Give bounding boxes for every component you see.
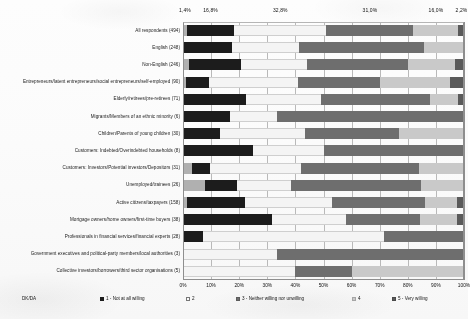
bar-row[interactable]: [183, 142, 464, 159]
bar-row[interactable]: [183, 211, 464, 228]
bar-segment-s2[interactable]: [220, 128, 304, 139]
bar-segment-s4[interactable]: [419, 163, 464, 174]
bar-segment-s1[interactable]: [187, 197, 246, 208]
bar-segment-s3[interactable]: [298, 77, 379, 88]
bar-segment-s2[interactable]: [246, 94, 320, 105]
legend-item-0[interactable]: DK/DA: [22, 296, 36, 302]
bar-segment-s1[interactable]: [183, 94, 246, 105]
bar-segment-s5[interactable]: [458, 94, 464, 105]
bar-segment-s0[interactable]: [183, 163, 192, 174]
stacked-bar[interactable]: [183, 128, 464, 139]
bar-row[interactable]: [183, 246, 464, 263]
bar-segment-s2[interactable]: [209, 77, 299, 88]
bar-segment-s2[interactable]: [210, 163, 301, 174]
stacked-bar[interactable]: [183, 231, 464, 242]
bar-segment-s1[interactable]: [183, 145, 253, 156]
bar-segment-s2[interactable]: [183, 266, 295, 277]
bar-row[interactable]: [183, 125, 464, 142]
bar-segment-s4[interactable]: [425, 197, 457, 208]
bar-segment-s1[interactable]: [192, 163, 210, 174]
bar-row[interactable]: [183, 177, 464, 194]
bar-segment-s3[interactable]: [346, 214, 420, 225]
bar-segment-s4[interactable]: [380, 77, 450, 88]
bar-segment-s3[interactable]: [295, 266, 351, 277]
bar-row[interactable]: [183, 263, 464, 280]
stacked-bar[interactable]: [183, 111, 464, 122]
bar-segment-s1[interactable]: [189, 59, 242, 70]
bar-row[interactable]: [183, 228, 464, 245]
bar-segment-s3[interactable]: [384, 231, 464, 242]
bar-segment-s5[interactable]: [457, 214, 464, 225]
bar-segment-s1[interactable]: [183, 128, 220, 139]
bar-segment-s1[interactable]: [205, 180, 237, 191]
stacked-bar[interactable]: [183, 163, 464, 174]
bar-segment-s4[interactable]: [352, 266, 464, 277]
bar-segment-s0[interactable]: [183, 180, 205, 191]
bar-segment-s2[interactable]: [245, 197, 332, 208]
bar-segment-s1[interactable]: [183, 214, 272, 225]
bar-row[interactable]: [183, 194, 464, 211]
stacked-bar[interactable]: [183, 42, 464, 53]
bar-segment-s4[interactable]: [424, 42, 464, 53]
bar-segment-s2[interactable]: [183, 249, 277, 260]
bar-segment-s3[interactable]: [305, 128, 399, 139]
legend-item-5[interactable]: 5 - Very willing: [392, 296, 428, 302]
stacked-bar[interactable]: [183, 266, 464, 277]
bar-segment-s5[interactable]: [455, 59, 464, 70]
stacked-bar[interactable]: [183, 94, 464, 105]
bar-segment-s2[interactable]: [203, 231, 384, 242]
bar-segment-s3[interactable]: [321, 94, 431, 105]
bar-segment-s5[interactable]: [450, 77, 464, 88]
bar-row[interactable]: [183, 91, 464, 108]
bar-segment-s3[interactable]: [326, 25, 413, 36]
legend-item-2[interactable]: 2: [186, 296, 195, 302]
bar-segment-s3[interactable]: [301, 163, 419, 174]
bar-row[interactable]: [183, 108, 464, 125]
stacked-bar[interactable]: [183, 214, 464, 225]
bar-segment-s4[interactable]: [408, 59, 455, 70]
bar-segment-s1[interactable]: [187, 25, 234, 36]
bar-segment-s4[interactable]: [430, 94, 458, 105]
bar-segment-s3[interactable]: [277, 249, 464, 260]
bar-segment-s3[interactable]: [277, 111, 464, 122]
bar-segment-s2[interactable]: [230, 111, 277, 122]
bar-segment-s1[interactable]: [186, 77, 208, 88]
bar-segment-s5[interactable]: [457, 197, 464, 208]
bar-row[interactable]: [183, 39, 464, 56]
stacked-bar[interactable]: [183, 180, 464, 191]
stacked-bar[interactable]: [183, 197, 464, 208]
bar-segment-s1[interactable]: [183, 42, 232, 53]
stacked-bar[interactable]: [183, 145, 464, 156]
bar-segment-s2[interactable]: [232, 42, 299, 53]
bar-segment-s3[interactable]: [332, 197, 424, 208]
bar-row[interactable]: [183, 160, 464, 177]
bar-segment-s2[interactable]: [272, 214, 346, 225]
legend-item-4[interactable]: 4: [352, 296, 361, 302]
bar-segment-s3[interactable]: [324, 145, 465, 156]
bar-segment-s3[interactable]: [299, 42, 424, 53]
legend-item-1[interactable]: 1 - Not at all willing: [100, 296, 145, 302]
bar-segment-s2[interactable]: [241, 59, 307, 70]
bar-segment-s2[interactable]: [253, 145, 323, 156]
top-value-label: 32,8%: [273, 7, 288, 13]
bar-segment-s3[interactable]: [307, 59, 408, 70]
bar-segment-s5[interactable]: [458, 25, 464, 36]
bar-segment-s2[interactable]: [234, 25, 326, 36]
bar-segment-s1[interactable]: [183, 231, 203, 242]
stacked-bar[interactable]: [183, 25, 464, 36]
legend-item-3[interactable]: 3 - Neither willing nor unwilling: [236, 296, 304, 302]
bar-segment-s4[interactable]: [420, 214, 457, 225]
stacked-bar[interactable]: [183, 59, 464, 70]
bar-row[interactable]: [183, 56, 464, 73]
stacked-bar[interactable]: [183, 77, 464, 88]
stacked-bar[interactable]: [183, 249, 464, 260]
bar-segment-s1[interactable]: [183, 111, 230, 122]
bar-segment-s2[interactable]: [237, 180, 291, 191]
x-tick-label: 70%: [375, 283, 385, 288]
bar-segment-s4[interactable]: [413, 25, 458, 36]
bar-row[interactable]: [183, 74, 464, 91]
bar-segment-s4[interactable]: [399, 128, 464, 139]
bar-row[interactable]: [183, 22, 464, 39]
bar-segment-s4[interactable]: [421, 180, 464, 191]
bar-segment-s3[interactable]: [291, 180, 421, 191]
